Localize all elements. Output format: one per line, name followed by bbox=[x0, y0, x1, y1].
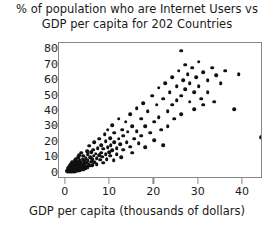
scatter-point bbox=[188, 100, 192, 104]
scatter-point bbox=[102, 147, 106, 151]
scatter-point bbox=[224, 69, 228, 73]
scatter-point bbox=[126, 130, 130, 134]
scatter-point bbox=[157, 115, 161, 119]
scatter-point bbox=[197, 60, 201, 64]
scatter-point bbox=[115, 152, 119, 156]
y-axis-tick-mark bbox=[51, 140, 58, 141]
chart-title: % of population who are Internet Users v… bbox=[0, 2, 274, 32]
scatter-point bbox=[175, 98, 179, 102]
scatter-point bbox=[181, 78, 185, 82]
scatter-point bbox=[179, 94, 183, 98]
scatter-point bbox=[137, 142, 141, 146]
scatter-point bbox=[192, 91, 196, 95]
scatter-point bbox=[139, 134, 143, 138]
x-axis-tick-label: 40 bbox=[222, 186, 262, 197]
scatter-point bbox=[117, 137, 121, 141]
scatter-point bbox=[130, 151, 134, 155]
scatter-point bbox=[197, 84, 201, 88]
x-axis-tick-mark bbox=[197, 178, 198, 184]
x-axis-tick-label: 30 bbox=[178, 186, 218, 197]
y-axis-tick-mark bbox=[51, 125, 58, 126]
scatter-point bbox=[128, 145, 132, 149]
scatter-point bbox=[125, 140, 129, 144]
scatter-point bbox=[96, 146, 100, 150]
scatter-point bbox=[170, 75, 174, 79]
scatter-point bbox=[195, 75, 199, 79]
scatter-point bbox=[110, 149, 114, 153]
scatter-point bbox=[90, 163, 94, 167]
scatter-point bbox=[153, 120, 157, 124]
scatter-point bbox=[175, 84, 179, 88]
scatter-point bbox=[104, 139, 108, 143]
scatter-point bbox=[135, 129, 139, 133]
scatter-point bbox=[201, 71, 205, 75]
scatter-point bbox=[121, 128, 125, 132]
scatter-point bbox=[124, 120, 128, 124]
scatter-point bbox=[119, 156, 123, 160]
scatter-point bbox=[106, 128, 110, 132]
scatter-point bbox=[112, 159, 116, 163]
scatter-point bbox=[206, 91, 210, 95]
scatter-point bbox=[179, 49, 183, 53]
x-axis-tick-mark bbox=[64, 178, 65, 184]
scatter-point bbox=[102, 161, 106, 165]
chart-title-line-2: GDP per capita for 202 Countries bbox=[0, 17, 274, 32]
scatter-point bbox=[113, 131, 117, 135]
scatter-point bbox=[166, 125, 170, 129]
scatter-point bbox=[161, 97, 165, 101]
x-axis-tick-mark bbox=[108, 178, 109, 184]
scatter-point bbox=[103, 132, 107, 136]
scatter-point bbox=[122, 148, 126, 152]
scatter-point bbox=[157, 86, 161, 90]
scatter-point bbox=[199, 97, 203, 101]
scatter-point bbox=[192, 108, 196, 112]
scatter-point bbox=[219, 81, 223, 85]
scatter-point bbox=[190, 66, 194, 70]
scatter-point bbox=[259, 135, 261, 139]
scatter-point bbox=[201, 103, 205, 107]
scatter-point bbox=[168, 91, 172, 95]
x-axis-tick-label: 10 bbox=[89, 186, 129, 197]
scatter-point bbox=[186, 72, 190, 76]
plot-area bbox=[58, 42, 262, 178]
scatter-point bbox=[135, 106, 139, 110]
scatter-point bbox=[130, 125, 134, 129]
y-axis-tick-mark bbox=[51, 171, 58, 172]
scatter-point bbox=[206, 78, 210, 82]
scatter-point bbox=[179, 112, 183, 116]
scatter-point bbox=[177, 69, 181, 73]
scatter-point bbox=[87, 144, 91, 148]
scatter-point bbox=[161, 143, 165, 147]
scatter-point bbox=[164, 81, 168, 85]
scatter-point bbox=[110, 123, 114, 127]
scatter-points-layer bbox=[59, 43, 261, 177]
scatter-point bbox=[141, 101, 145, 105]
scatter-chart-figure: % of population who are Internet Users v… bbox=[0, 0, 274, 227]
scatter-point bbox=[150, 94, 154, 98]
scatter-point bbox=[117, 117, 121, 121]
scatter-point bbox=[166, 109, 170, 113]
scatter-point bbox=[113, 140, 117, 144]
chart-title-line-1: % of population who are Internet Users v… bbox=[0, 2, 274, 17]
x-axis-tick-label: 20 bbox=[133, 186, 173, 197]
scatter-point bbox=[144, 125, 148, 129]
scatter-point bbox=[122, 134, 126, 138]
scatter-point bbox=[109, 143, 113, 147]
scatter-point bbox=[232, 108, 236, 112]
scatter-point bbox=[237, 72, 241, 76]
x-axis-tick-mark bbox=[153, 178, 154, 184]
y-axis-tick-mark bbox=[51, 78, 58, 79]
scatter-point bbox=[95, 163, 99, 167]
scatter-point bbox=[118, 142, 122, 146]
y-axis-tick-mark bbox=[51, 156, 58, 157]
y-axis-tick-mark bbox=[51, 63, 58, 64]
x-axis-title: GDP per capita (thousands of dollars) bbox=[0, 204, 274, 218]
scatter-point bbox=[139, 117, 143, 121]
scatter-point bbox=[212, 100, 216, 104]
scatter-point bbox=[97, 137, 101, 141]
scatter-point bbox=[159, 128, 163, 132]
scatter-point bbox=[148, 131, 152, 135]
y-axis-tick-mark bbox=[51, 94, 58, 95]
scatter-point bbox=[215, 74, 219, 78]
scatter-point bbox=[128, 112, 132, 116]
